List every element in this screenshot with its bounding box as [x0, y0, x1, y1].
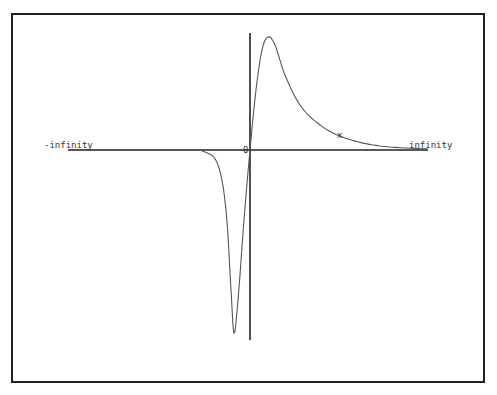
origin-label: 0 — [243, 145, 248, 155]
plot-canvas: -infinity infinity 0 x — [0, 0, 497, 395]
x-axis-left-label: -infinity — [44, 140, 93, 150]
x-axis-right-label: infinity — [409, 140, 453, 150]
function-curve — [68, 37, 428, 333]
x-label: x — [337, 130, 343, 140]
